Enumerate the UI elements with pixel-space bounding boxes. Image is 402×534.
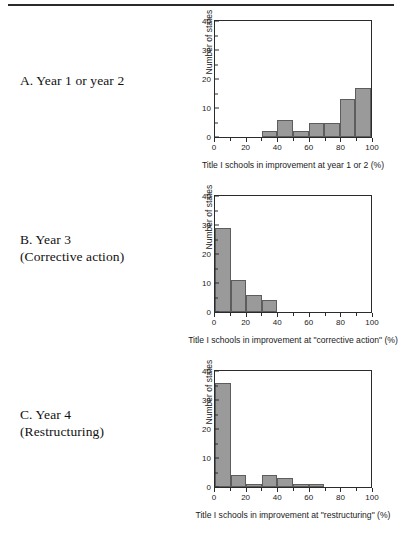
y-tick [215, 254, 219, 255]
panel-c-x-axis-label: Title I schools in improvement at "restr… [186, 510, 400, 520]
x-tick-label: 100 [365, 143, 378, 152]
x-tick-minor [356, 138, 357, 141]
y-tick [215, 283, 219, 284]
x-tick-minor [356, 488, 357, 491]
x-tick-minor [230, 138, 231, 141]
y-tick-label: 10 [202, 104, 211, 113]
bar [293, 484, 309, 487]
panel-b-plot: Number of states 010203040 020406080100 … [186, 193, 394, 353]
x-tick-minor [325, 488, 326, 491]
panel-b-plot-area: 010203040 [214, 195, 372, 313]
y-tick-label: 10 [202, 279, 211, 288]
bar [355, 88, 371, 137]
x-tick [309, 488, 310, 492]
y-tick [215, 429, 219, 430]
bar [293, 131, 309, 137]
panel-a-x-axis-label: Title I schools in improvement at year 1… [186, 160, 400, 170]
y-tick-minor [215, 35, 218, 36]
bar [309, 484, 325, 487]
x-tick-label: 80 [336, 143, 345, 152]
y-tick [215, 400, 219, 401]
y-tick-minor [215, 93, 218, 94]
bar [309, 123, 325, 138]
y-tick [215, 458, 219, 459]
panel-b-x-axis-label: Title I schools in improvement at "corre… [186, 335, 400, 345]
panel-c-caption-line1: C. Year 4 [20, 407, 71, 422]
panel-b-bars [215, 196, 371, 312]
x-tick [246, 138, 247, 142]
panel-a-x-axis: 020406080100 [214, 138, 372, 154]
x-tick-label: 0 [212, 318, 216, 327]
y-tick [215, 371, 219, 372]
x-tick-minor [293, 488, 294, 491]
x-tick-label: 60 [304, 493, 313, 502]
panel-c-caption: C. Year 4 (Restructuring) [20, 406, 180, 441]
figure-page: A. Year 1 or year 2 Number of states 010… [0, 0, 402, 534]
header-rule [8, 4, 394, 6]
x-tick-label: 0 [212, 143, 216, 152]
x-tick-minor [325, 313, 326, 316]
y-tick-minor [215, 472, 218, 473]
panel-a-plot: Number of states 010203040 020406080100 … [186, 18, 394, 178]
panel-b-caption-line1: B. Year 3 [20, 232, 71, 247]
panel-c-plot: Number of states 010203040 020406080100 … [186, 368, 394, 528]
y-tick [215, 108, 219, 109]
y-tick-label: 20 [202, 425, 211, 434]
y-tick-label: 0 [207, 133, 211, 142]
x-tick-minor [261, 313, 262, 316]
x-tick [277, 313, 278, 317]
y-tick-label: 40 [202, 17, 211, 26]
x-tick [277, 488, 278, 492]
panel-c-plot-area: 010203040 [214, 370, 372, 488]
y-tick-minor [215, 64, 218, 65]
x-tick-label: 40 [273, 318, 282, 327]
x-tick [372, 313, 373, 317]
y-tick-minor [215, 385, 218, 386]
x-tick [214, 138, 215, 142]
x-tick [340, 138, 341, 142]
y-tick-label: 0 [207, 483, 211, 492]
x-tick [277, 138, 278, 142]
y-tick-label: 0 [207, 308, 211, 317]
panel-a-caption: A. Year 1 or year 2 [20, 72, 180, 89]
panel-c-bars [215, 371, 371, 487]
x-tick-label: 80 [336, 318, 345, 327]
x-tick-minor [293, 138, 294, 141]
y-tick-minor [215, 297, 218, 298]
x-tick [214, 313, 215, 317]
x-tick-minor [261, 488, 262, 491]
y-tick [215, 79, 219, 80]
x-tick-label: 0 [212, 493, 216, 502]
y-tick-minor [215, 268, 218, 269]
y-tick-minor [215, 122, 218, 123]
x-tick-minor [261, 138, 262, 141]
bar [262, 300, 278, 312]
panel-a: A. Year 1 or year 2 Number of states 010… [0, 10, 402, 180]
y-tick-label: 10 [202, 454, 211, 463]
bar [246, 484, 262, 487]
x-tick-label: 100 [365, 318, 378, 327]
y-tick [215, 21, 219, 22]
bar [277, 478, 293, 487]
y-tick-label: 40 [202, 367, 211, 376]
x-tick [246, 313, 247, 317]
bar [277, 120, 293, 137]
x-tick-label: 60 [304, 318, 313, 327]
panel-b: B. Year 3 (Corrective action) Number of … [0, 185, 402, 355]
bar [231, 280, 247, 312]
x-tick [214, 488, 215, 492]
y-tick [215, 50, 219, 51]
panel-a-bars [215, 21, 371, 137]
y-tick [215, 196, 219, 197]
bar [340, 99, 356, 137]
y-tick-minor [215, 239, 218, 240]
x-tick-label: 20 [241, 143, 250, 152]
x-tick-minor [230, 488, 231, 491]
x-tick-label: 100 [365, 493, 378, 502]
x-tick-minor [293, 313, 294, 316]
bar [324, 123, 340, 138]
y-tick-label: 40 [202, 192, 211, 201]
bar [231, 475, 247, 487]
x-tick-minor [325, 138, 326, 141]
y-tick-minor [215, 443, 218, 444]
